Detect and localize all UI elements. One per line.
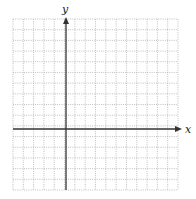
coordinate-plane: x y <box>0 0 196 199</box>
x-axis-label: x <box>185 123 192 136</box>
grid-lines <box>13 19 178 190</box>
x-axis-arrow-icon <box>175 126 182 132</box>
y-axis-arrow-icon <box>63 17 69 24</box>
y-axis-label: y <box>61 3 69 16</box>
